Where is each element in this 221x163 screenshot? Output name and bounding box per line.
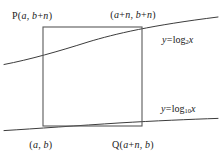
- curve-log10: [4, 118, 218, 130]
- curve-label-log2: y=log2x: [162, 35, 193, 45]
- vertex-label-bottom-left: (a, b): [29, 140, 52, 150]
- curve-label-log10: y=log10x: [161, 104, 195, 114]
- vertex-label-top-right: (a+n, b+n): [110, 10, 156, 20]
- rectangle-pq: [43, 27, 142, 126]
- vertex-label-q: Q(a+n, b): [112, 140, 154, 150]
- vertex-label-p: P(a, b+n): [12, 11, 52, 21]
- logarithm-rectangle-figure: P(a, b+n) (a+n, b+n) (a, b) Q(a+n, b) y=…: [0, 0, 221, 163]
